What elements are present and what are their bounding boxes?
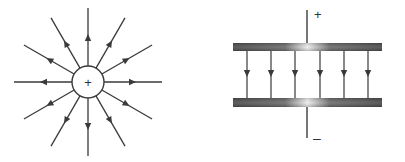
parallel-plates-diagram: + –: [233, 7, 382, 146]
arrow-icon: [85, 34, 91, 41]
arrow-down-icon: [244, 70, 250, 77]
arrow-icon: [40, 79, 47, 85]
diagram-canvas: + + –: [0, 0, 405, 162]
arrow-down-icon: [317, 70, 323, 77]
arrow-down-icon: [365, 70, 371, 77]
arrow-down-icon: [268, 70, 274, 77]
arrow-icon: [85, 123, 91, 130]
positive-terminal-label: +: [314, 7, 322, 22]
arrow-down-icon: [341, 70, 347, 77]
charge-symbol: +: [84, 75, 92, 90]
top-plate-shade: [233, 43, 382, 51]
point-charge-diagram: +: [14, 8, 162, 156]
plate-field-lines: [244, 51, 371, 98]
arrow-icon: [129, 79, 136, 85]
negative-terminal-label: –: [313, 130, 321, 146]
bottom-plate-shade: [233, 98, 382, 107]
arrow-down-icon: [292, 70, 298, 77]
